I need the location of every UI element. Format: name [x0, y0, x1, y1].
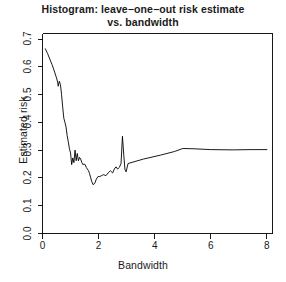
x-tick-label: 4 — [143, 240, 167, 251]
y-axis-label: Estimated risk — [17, 55, 29, 205]
x-axis-ticks — [43, 234, 267, 239]
x-tick-label: 2 — [87, 240, 111, 251]
risk-curve — [45, 49, 267, 185]
axes-frame — [43, 34, 273, 234]
x-axis-label: Bandwidth — [0, 259, 286, 271]
x-tick-label: 0 — [31, 240, 55, 251]
y-tick-label: 0.7 — [22, 26, 33, 52]
y-axis-ticks — [38, 39, 43, 233]
x-tick-label: 6 — [199, 240, 223, 251]
figure-panel: Histogram: leave−one−out risk estimate v… — [0, 0, 286, 282]
x-tick-label: 8 — [255, 240, 279, 251]
y-tick-label: 0.0 — [22, 220, 33, 246]
